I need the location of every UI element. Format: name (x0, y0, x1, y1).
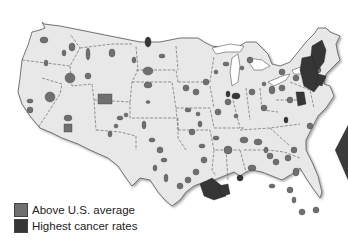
map-legend: Above U.S. average Highest cancer rates (14, 202, 137, 234)
legend-label: Above U.S. average (32, 204, 135, 216)
above-average-swatch-icon (14, 203, 28, 217)
legend-item-above-average: Above U.S. average (14, 202, 137, 218)
legend-item-highest-rates: Highest cancer rates (14, 218, 137, 234)
legend-label: Highest cancer rates (32, 220, 137, 232)
us-outline (18, 22, 340, 206)
highest-rates-swatch-icon (14, 219, 28, 233)
decorative-diamond-shape (335, 125, 348, 180)
